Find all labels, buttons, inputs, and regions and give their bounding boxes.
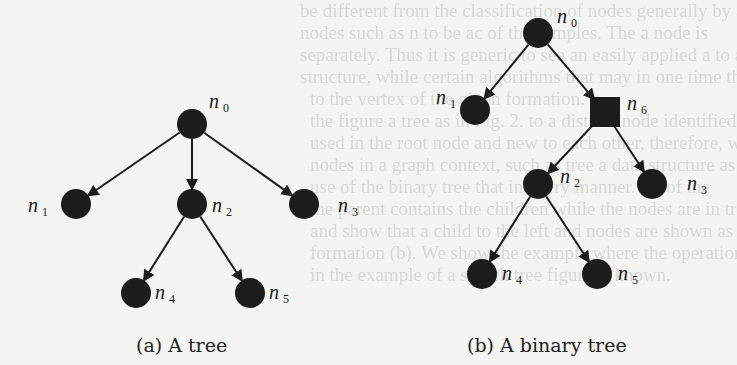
edge-n2-n4 — [143, 217, 184, 281]
node-n4-circle — [467, 259, 497, 289]
node-n4-circle — [121, 278, 151, 308]
edge-n6-n3 — [614, 126, 644, 172]
node-n5-circle — [235, 278, 265, 308]
node-label-n3: n — [687, 172, 697, 194]
node-n3-circle — [637, 169, 667, 199]
caption-a: (a) A tree — [136, 334, 227, 356]
caption-b: (b) A binary tree — [467, 334, 627, 356]
node-n1-circle — [460, 95, 490, 125]
node-n0-circle — [177, 109, 207, 139]
node-label-subscript-n4: 4 — [169, 292, 175, 306]
node-label-n3: n — [338, 194, 348, 216]
node-label-subscript-n2: 2 — [226, 205, 232, 219]
node-label-subscript-n1: 1 — [42, 205, 48, 219]
edge-n0-n3 — [204, 133, 292, 196]
node-label-n5: n — [618, 262, 628, 284]
node-label-n1: n — [28, 194, 38, 216]
node-n2-circle — [523, 169, 553, 199]
node-label-subscript-n5: 5 — [283, 292, 289, 306]
node-n0-circle — [523, 18, 553, 48]
node-label-n5: n — [269, 281, 279, 303]
node-label-subscript-n4: 4 — [516, 273, 522, 287]
node-label-subscript-n3: 3 — [352, 205, 358, 219]
node-label-subscript-n5: 5 — [632, 273, 638, 287]
node-n5-circle — [582, 259, 612, 289]
node-label-n2: n — [212, 194, 222, 216]
node-label-subscript-n0: 0 — [571, 16, 577, 30]
figure-a-tree: n0n1n2n3n4n5 — [28, 90, 358, 308]
node-label-subscript-n1: 1 — [450, 97, 456, 111]
edge-n0-n1 — [484, 45, 529, 100]
figure-b-binary-tree: n0n1n6n2n3n4n5 — [436, 5, 707, 289]
node-label-n0: n — [209, 90, 219, 112]
node-label-n1: n — [436, 86, 446, 108]
node-label-subscript-n2: 2 — [574, 176, 580, 190]
node-n1-circle — [61, 189, 91, 219]
node-label-n0: n — [557, 5, 567, 27]
node-label-n6: n — [627, 92, 637, 114]
node-n2-circle — [177, 189, 207, 219]
edge-n2-n4 — [489, 197, 530, 262]
node-label-subscript-n0: 0 — [223, 101, 229, 115]
edge-n2-n5 — [200, 217, 242, 282]
edge-n0-n6 — [548, 44, 595, 99]
tree-diagrams: n0n1n2n3n4n5 n0n1n6n2n3n4n5 — [0, 0, 737, 365]
node-n6-square — [590, 97, 620, 127]
node-label-subscript-n3: 3 — [701, 183, 707, 197]
node-label-n2: n — [560, 165, 570, 187]
node-label-n4: n — [502, 262, 512, 284]
edge-n0-n1 — [88, 133, 180, 197]
edge-n6-n2 — [548, 124, 594, 173]
node-label-n4: n — [155, 281, 165, 303]
edge-n2-n5 — [546, 197, 589, 263]
node-label-subscript-n6: 6 — [641, 103, 647, 117]
node-n3-circle — [289, 189, 319, 219]
